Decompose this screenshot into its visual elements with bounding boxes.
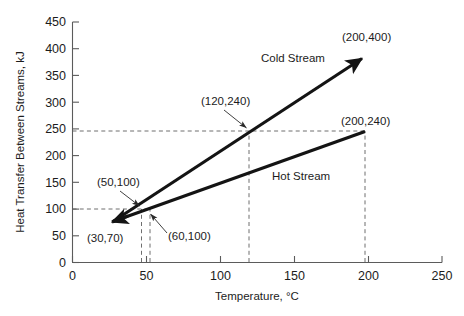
x-tick-label: 250 [432,269,453,283]
y-tick-label: 300 [45,96,66,110]
y-axis-title: Heat Transfer Between Streams, kJ [14,51,26,233]
annotation-60-100: (60,100) [168,230,211,242]
x-tick-label: 200 [358,269,379,283]
x-tick-label: 50 [140,269,154,283]
y-tick-label: 50 [52,229,66,243]
x-tick-label: 150 [284,269,305,283]
series-label-hot-stream: Hot Stream [272,170,330,182]
annotation-30-70: (30,70) [87,232,124,244]
y-tick-label: 250 [45,122,66,136]
chart-figure: 0 50 100 150 200 250 300 350 400 450 0 5… [0,0,464,316]
x-tick-label: 0 [69,269,76,283]
y-tick-label: 0 [59,256,66,270]
annotation-200-240: (200,240) [341,115,390,127]
y-tick-label: 400 [45,42,66,56]
y-tick-label: 450 [45,15,66,29]
y-tick-label: 100 [45,202,66,216]
series-label-cold-stream: Cold Stream [261,52,325,64]
x-axis-title: Temperature, °C [215,290,299,302]
annotation-50-100: (50,100) [97,176,140,188]
y-tick-label: 200 [45,149,66,163]
annotation-120-240: (120,240) [201,95,250,107]
chart-svg: 0 50 100 150 200 250 300 350 400 450 0 5… [0,0,464,316]
y-tick-label: 350 [45,69,66,83]
x-tick-label: 100 [210,269,231,283]
annotation-200-400: (200,400) [342,31,391,43]
y-tick-label: 150 [45,176,66,190]
